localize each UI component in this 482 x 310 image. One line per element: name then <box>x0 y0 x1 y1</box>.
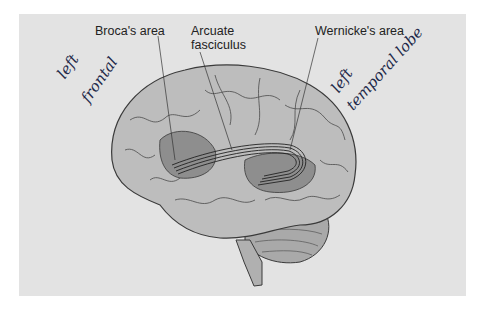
cerebrum <box>112 65 356 238</box>
label-arcuate-line1: Arcuate <box>191 24 234 38</box>
label-broca: Broca's area <box>95 24 165 38</box>
label-wernicke: Wernicke's area <box>315 24 404 38</box>
label-arcuate-line2: fasciculus <box>191 38 246 52</box>
